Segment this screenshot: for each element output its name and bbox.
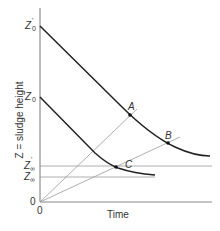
- svg-text:∞: ∞: [30, 165, 35, 172]
- svg-text:': ': [32, 17, 33, 24]
- tick-z0-prime: Z ' 0: [24, 17, 36, 32]
- settling-diagram: A B C Z ' 0 Z 0 Z ' ∞ Z ∞ 0 0 Z = sludge…: [0, 0, 220, 231]
- svg-text:Z: Z: [24, 20, 32, 31]
- label-b: B: [165, 130, 172, 141]
- svg-text:0: 0: [32, 25, 36, 32]
- svg-text:∞: ∞: [30, 176, 35, 183]
- point-a: [128, 113, 132, 117]
- tick-origin-x: 0: [37, 205, 43, 216]
- x-axis-label: Time: [107, 209, 129, 220]
- tick-zinf: Z ∞: [23, 171, 35, 183]
- svg-text:0: 0: [32, 96, 36, 103]
- tick-origin-y: 0: [30, 196, 36, 207]
- label-c: C: [125, 159, 133, 170]
- settling-curve-lower: [40, 97, 155, 175]
- ray-oa: [40, 109, 137, 202]
- y-axis-label: Z = sludge height: [14, 81, 25, 158]
- svg-text:': ': [31, 156, 32, 163]
- point-c: [114, 165, 118, 169]
- svg-text:Z: Z: [24, 91, 32, 102]
- ray-ob: [40, 137, 180, 202]
- settling-curve-upper: [40, 26, 210, 156]
- point-b: [166, 141, 170, 145]
- label-a: A: [127, 101, 135, 112]
- tick-z0: Z 0: [24, 91, 36, 103]
